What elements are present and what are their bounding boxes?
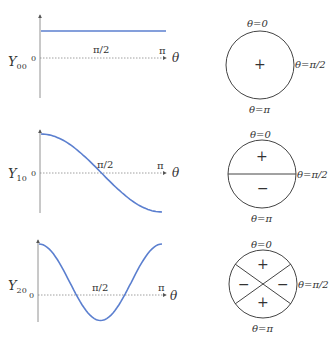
mid-tick: π/2	[97, 159, 113, 170]
zero-tick: 0	[31, 169, 36, 178]
label-theta-0: θ=0	[247, 18, 268, 29]
spherical-harmonics-diagram: Y00 0 π/2 π θ + θ=0 θ=π/2 θ=π Y10 0 π/2 …	[0, 0, 336, 339]
plot-y10: Y10 0 π/2 π θ	[8, 130, 180, 213]
axis-var: θ	[172, 166, 180, 180]
sign-plus-top: +	[257, 256, 269, 272]
polar-y20: + − − + θ=0 θ=π/2 θ=π	[229, 239, 329, 334]
plot-y00: Y00 0 π/2 π θ	[8, 15, 180, 98]
label-theta-0: θ=0	[250, 129, 271, 140]
polar-y00: + θ=0 θ=π/2 θ=π	[226, 18, 326, 115]
sign-minus: −	[257, 180, 269, 196]
sign-plus-bottom: +	[257, 294, 269, 310]
label-theta-pi2: θ=π/2	[298, 279, 329, 290]
end-tick: π	[157, 160, 164, 171]
label-theta-pi2: θ=π/2	[297, 169, 328, 180]
label-theta-pi: θ=π	[252, 323, 273, 334]
row-label: Y00	[8, 54, 27, 71]
label-theta-pi: θ=π	[249, 104, 270, 115]
zero-tick: 0	[29, 291, 34, 300]
mid-tick: π/2	[93, 44, 109, 55]
sign-plus: +	[254, 56, 266, 72]
label-theta-pi: θ=π	[251, 213, 272, 224]
sign-minus-left: −	[238, 276, 250, 292]
sign-plus: +	[256, 148, 268, 164]
label-theta-0: θ=0	[251, 239, 272, 250]
end-tick: π	[159, 45, 166, 56]
mid-tick: π/2	[92, 282, 108, 293]
row-label: Y10	[8, 166, 27, 183]
zero-tick: 0	[31, 54, 36, 63]
axis-var: θ	[172, 51, 180, 65]
label-theta-pi2: θ=π/2	[295, 59, 326, 70]
sign-minus-right: −	[277, 276, 289, 292]
polar-y10: + − θ=0 θ=π/2 θ=π	[228, 129, 328, 224]
row-label: Y20	[8, 278, 27, 295]
end-tick: π	[158, 282, 165, 293]
plot-y20: Y20 0 π/2 π θ	[8, 240, 178, 322]
axis-var: θ	[170, 289, 178, 303]
